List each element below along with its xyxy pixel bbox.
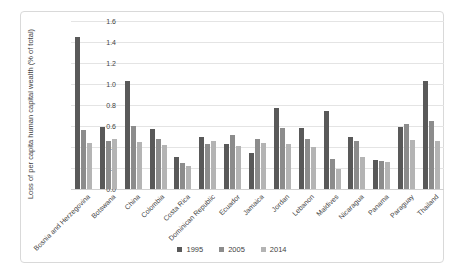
legend-swatch-icon	[219, 247, 224, 252]
x-category-label: Ecuador	[217, 193, 240, 216]
bar-1995-botswana	[100, 127, 105, 189]
x-category-label: Paraguay	[388, 193, 414, 219]
bar-2014-maldives	[336, 169, 341, 189]
x-category-label: Thailand	[416, 193, 440, 217]
x-category-label: Colombia	[140, 193, 166, 219]
bar-2005-lebanon	[305, 139, 310, 189]
bar-2014-lebanon	[311, 147, 316, 189]
x-category-label: Botswana	[90, 193, 117, 220]
bar-groups	[71, 21, 444, 189]
bar-2005-bosnia-and-herzegovina	[81, 130, 86, 189]
bar-2014-dominican-republic	[211, 141, 216, 189]
bar-2014-colombia	[162, 145, 167, 189]
bar-2005-jamaica	[255, 139, 260, 189]
bar-2014-ecuador	[236, 146, 241, 189]
x-category-label: Panama	[366, 193, 389, 216]
legend-swatch-icon	[261, 247, 266, 252]
x-category-label: China	[123, 193, 141, 211]
bar-group-china	[121, 21, 146, 189]
bar-2014-nicaragua	[360, 157, 365, 190]
bar-group-paraguay	[394, 21, 419, 189]
bar-2005-botswana	[106, 141, 111, 189]
bar-group-ecuador	[220, 21, 245, 189]
bar-2014-costa-rica	[186, 166, 191, 189]
bar-group-jordan	[270, 21, 295, 189]
bar-2014-jordan	[286, 144, 291, 189]
bar-1995-maldives	[324, 111, 329, 189]
legend-label: 2005	[228, 245, 245, 254]
bar-2005-panama	[379, 161, 384, 189]
bar-1995-jamaica	[249, 153, 254, 189]
bar-2014-china	[137, 142, 142, 189]
y-axis-title: Loss of per capita human capital wealth …	[26, 25, 38, 203]
legend-item-2014: 2014	[261, 245, 287, 254]
legend-item-2005: 2005	[219, 245, 245, 254]
x-category-label: Nicaragua	[337, 193, 365, 221]
bar-1995-ecuador	[224, 144, 229, 189]
bar-group-bosnia-and-herzegovina	[71, 21, 96, 189]
bar-2005-jordan	[280, 128, 285, 189]
bar-1995-thailand	[423, 81, 428, 189]
bar-2005-china	[131, 126, 136, 189]
plot-area: 1.61.41.21.00.80.60.40.20.0	[71, 21, 444, 189]
bar-1995-china	[125, 81, 130, 189]
bar-group-thailand	[419, 21, 444, 189]
bar-group-colombia	[146, 21, 171, 189]
bar-group-panama	[369, 21, 394, 189]
gridline-0.0	[71, 189, 444, 190]
legend-label: 1995	[186, 245, 203, 254]
bar-2005-colombia	[156, 139, 161, 189]
legend-swatch-icon	[177, 247, 182, 252]
bar-2014-bosnia-and-herzegovina	[87, 143, 92, 189]
chart-frame: Loss of per capita human capital wealth …	[20, 11, 444, 263]
bar-2005-maldives	[330, 159, 335, 189]
legend: 199520052014	[21, 245, 443, 254]
bar-1995-jordan	[274, 108, 279, 189]
x-category-label: Jordan	[270, 193, 290, 213]
bar-group-dominican-republic	[195, 21, 220, 189]
bar-2005-ecuador	[230, 135, 235, 189]
bar-2005-dominican-republic	[205, 144, 210, 189]
x-category-label: Jamaica	[242, 193, 265, 216]
bar-1995-dominican-republic	[199, 137, 204, 190]
bar-2014-thailand	[435, 141, 440, 189]
bar-1995-costa-rica	[174, 157, 179, 190]
bar-1995-colombia	[150, 129, 155, 189]
bar-group-nicaragua	[344, 21, 369, 189]
bar-group-jamaica	[245, 21, 270, 189]
bar-1995-bosnia-and-herzegovina	[75, 37, 80, 189]
bar-1995-nicaragua	[348, 137, 353, 190]
bar-2005-paraguay	[404, 124, 409, 189]
bar-2014-panama	[385, 162, 390, 189]
x-category-label: Bosnia and Herzegovina	[32, 193, 91, 252]
bar-2014-paraguay	[410, 140, 415, 189]
x-category-label: Lebanon	[291, 193, 315, 217]
bar-1995-panama	[373, 160, 378, 189]
bar-1995-lebanon	[299, 128, 304, 189]
bar-group-costa-rica	[170, 21, 195, 189]
bar-2014-jamaica	[261, 143, 266, 189]
legend-label: 2014	[270, 245, 287, 254]
x-category-label: Maldives	[316, 193, 340, 217]
bar-1995-paraguay	[398, 127, 403, 189]
bar-group-lebanon	[295, 21, 320, 189]
bar-2005-nicaragua	[354, 141, 359, 189]
bar-group-botswana	[96, 21, 121, 189]
bar-2005-costa-rica	[180, 163, 185, 189]
bar-group-maldives	[320, 21, 345, 189]
bar-2014-botswana	[112, 139, 117, 189]
bar-2005-thailand	[429, 121, 434, 189]
x-category-label: Dominican Republic	[167, 193, 216, 242]
legend-item-1995: 1995	[177, 245, 203, 254]
